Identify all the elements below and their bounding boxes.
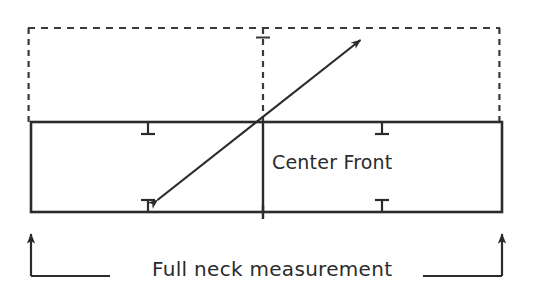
bracket-right [423,234,502,276]
neck-band-rectangle [31,122,502,212]
tick-bottom-right [375,200,389,212]
diagonal-double-arrow [158,40,361,200]
tick-top-right [375,122,389,134]
tick-bottom-left [141,200,155,212]
tick-top-left [141,122,155,134]
neck-measurement-diagram: Center Front Full neck measurement [0,0,534,300]
bracket-left [31,234,110,276]
center-front-guide [256,28,270,122]
full-neck-measurement-label: Full neck measurement [152,259,392,279]
diagram-canvas [0,0,534,300]
neck-band-outline [31,122,502,212]
center-front-label: Center Front [272,153,392,172]
